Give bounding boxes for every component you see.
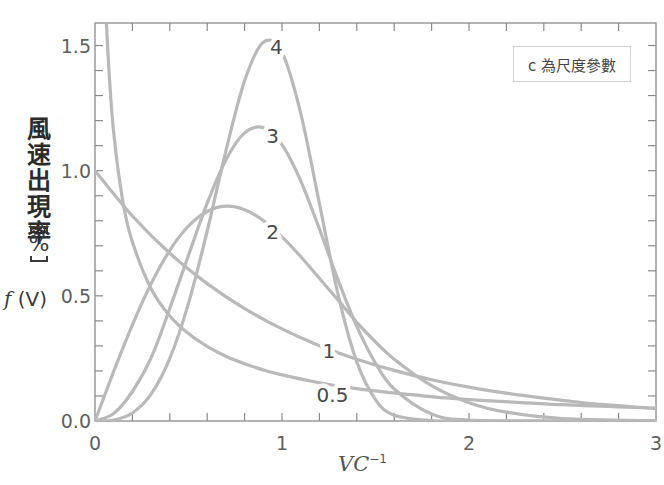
x-axis-label-exponent: −1 — [369, 452, 387, 466]
curve-label-k-3: 3 — [266, 124, 279, 148]
curve-label-k-1: 1 — [322, 339, 335, 363]
curve-label-k-4: 4 — [270, 35, 283, 59]
x-tick-label: 1 — [276, 432, 288, 454]
y-tick-label: 0.5 — [61, 285, 91, 307]
y-axis-symbol: f (V) — [4, 287, 47, 311]
bracket-close — [30, 256, 48, 262]
x-tick-label: 3 — [650, 432, 662, 454]
x-axis-label: VC−1 — [338, 452, 387, 476]
curve-label-k-0.5: 0.5 — [317, 383, 349, 407]
y-axis-unit: % — [24, 226, 54, 262]
x-tick-label: 2 — [463, 432, 475, 454]
y-tick-label: 1.5 — [61, 35, 91, 57]
x-tick-label: 0 — [89, 432, 101, 454]
y-tick-label: 1.0 — [61, 160, 91, 182]
curve-label-k-2: 2 — [266, 220, 279, 244]
legend-note: c 為尺度參數 — [513, 46, 631, 82]
y-tick-label: 0.0 — [61, 410, 91, 432]
y-axis-unit-text: % — [29, 231, 50, 256]
y-axis-symbol-arg: (V) — [11, 287, 47, 311]
x-axis-label-text: VC — [338, 452, 369, 476]
